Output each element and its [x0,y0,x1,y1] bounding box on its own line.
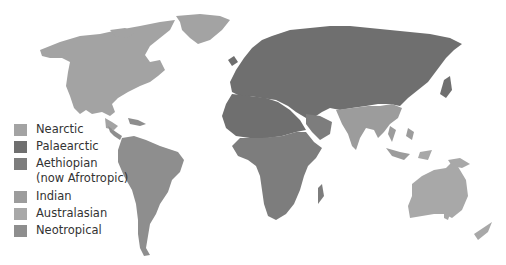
legend-label-australasian: Australasian [36,206,107,221]
legend-item-aethiopian: Aethiopian (now Afrotropic) [14,156,128,189]
legend-item-australasian: Australasian [14,206,128,223]
legend-label-nearctic: Nearctic [36,122,84,137]
legend-label-aethiopian-line1: Aethiopian [36,156,98,170]
region-australasian [408,150,492,240]
swatch-neotropical [14,225,27,237]
swatch-aethiopian [14,158,27,170]
legend-label-aethiopian: Aethiopian (now Afrotropic) [36,156,128,186]
legend-item-neotropical: Neotropical [14,223,128,240]
swatch-nearctic [14,124,27,136]
legend-item-indian: Indian [14,189,128,206]
map-legend: Nearctic Palaearctic Aethiopian (now Afr… [14,122,128,240]
region-indian [336,104,414,160]
legend-item-palaearctic: Palaearctic [14,139,128,156]
region-nearctic [40,14,230,130]
legend-label-aethiopian-line2: (now Afrotropic) [36,171,128,185]
legend-label-palaearctic: Palaearctic [36,139,99,154]
swatch-australasian [14,208,27,220]
swatch-palaearctic [14,141,27,153]
legend-item-nearctic: Nearctic [14,122,128,139]
legend-label-neotropical: Neotropical [36,223,102,238]
legend-label-indian: Indian [36,189,72,204]
swatch-indian [14,191,27,203]
